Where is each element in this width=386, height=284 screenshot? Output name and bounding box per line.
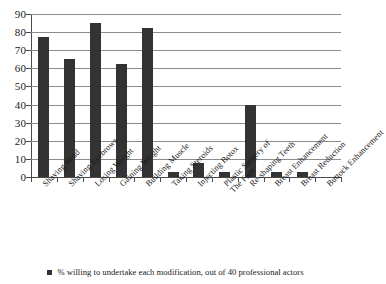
- legend-label: % willing to undertake each modification…: [57, 267, 303, 277]
- y-axis-tick-mark: [26, 14, 31, 15]
- y-axis-tick-label: 60: [15, 63, 26, 74]
- y-axis-tick-mark: [26, 86, 31, 87]
- x-axis-category-labels: Shaving HeadShaving EyebrowsLosing Weigh…: [0, 180, 351, 260]
- y-axis-tick-label: 10: [15, 153, 26, 164]
- y-axis-tick-label: 20: [15, 135, 26, 146]
- legend-square-marker-icon: [47, 270, 52, 275]
- y-axis-tick-mark: [26, 159, 31, 160]
- y-axis-tick-mark: [26, 105, 31, 106]
- y-axis-tick-mark: [26, 141, 31, 142]
- y-axis-tick-label: 90: [15, 9, 26, 20]
- y-axis-tick-mark: [26, 68, 31, 69]
- y-axis-tick-labels: 0102030405060708090: [0, 14, 30, 177]
- y-axis-tick-mark: [26, 177, 31, 178]
- y-axis-tick-label: 30: [15, 117, 26, 128]
- y-axis-tick-label: 50: [15, 81, 26, 92]
- y-axis-tick-mark: [26, 123, 31, 124]
- chart-legend: % willing to undertake each modification…: [0, 264, 351, 280]
- y-axis-tick-label: 40: [15, 99, 26, 110]
- bar: [38, 37, 49, 177]
- y-axis-tick-label: 70: [15, 45, 26, 56]
- y-axis-tick-mark: [26, 50, 31, 51]
- y-axis-tick-label: 80: [15, 27, 26, 38]
- y-axis-tick-mark: [26, 32, 31, 33]
